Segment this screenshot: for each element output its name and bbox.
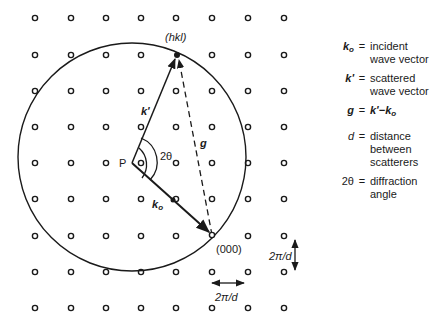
lattice-point bbox=[32, 15, 37, 20]
lattice-point bbox=[209, 160, 214, 165]
lattice-point bbox=[173, 160, 178, 165]
lattice-point bbox=[68, 269, 73, 274]
lattice-point bbox=[138, 52, 143, 57]
lattice-point bbox=[32, 305, 37, 310]
lattice-point bbox=[32, 124, 37, 129]
lattice-point bbox=[138, 124, 143, 129]
legend-item-g: g = k'−ko bbox=[326, 104, 439, 120]
lattice-point bbox=[138, 233, 143, 238]
lattice-point bbox=[209, 15, 214, 20]
lattice-point bbox=[32, 196, 37, 201]
lattice-point bbox=[209, 196, 214, 201]
hkl-label: (hkl) bbox=[165, 31, 186, 43]
lattice-point bbox=[281, 196, 286, 201]
lattice-point bbox=[103, 15, 108, 20]
lattice-point bbox=[103, 124, 108, 129]
lattice-point bbox=[173, 124, 178, 129]
legend: ko = incidentwave vector k' = scatteredw… bbox=[326, 40, 439, 207]
lattice-point bbox=[103, 52, 108, 57]
legend-item-k0: ko = incidentwave vector bbox=[326, 40, 439, 66]
legend-item-d: d = distancebetweenscatterers bbox=[326, 130, 439, 169]
reciprocal-lattice-points bbox=[32, 15, 286, 310]
lattice-point bbox=[103, 269, 108, 274]
lattice-point bbox=[68, 196, 73, 201]
lattice-point bbox=[32, 233, 37, 238]
lattice-point bbox=[209, 124, 214, 129]
lattice-point bbox=[32, 269, 37, 274]
lattice-point bbox=[245, 52, 250, 57]
lattice-point bbox=[173, 233, 178, 238]
g-label: g bbox=[200, 137, 207, 149]
point-p-label: P bbox=[119, 157, 126, 169]
lattice-point bbox=[245, 305, 250, 310]
lattice-point bbox=[68, 52, 73, 57]
lattice-point bbox=[68, 124, 73, 129]
k0-label: ko bbox=[152, 198, 163, 214]
lattice-point bbox=[209, 52, 214, 57]
lattice-point bbox=[68, 305, 73, 310]
lattice-point bbox=[103, 88, 108, 93]
lattice-point bbox=[138, 88, 143, 93]
origin-000-point bbox=[209, 232, 214, 237]
lattice-point bbox=[281, 52, 286, 57]
horizontal-spacing-label: 2π/d bbox=[215, 291, 238, 303]
lattice-point bbox=[173, 88, 178, 93]
lattice-point bbox=[138, 15, 143, 20]
lattice-point bbox=[245, 15, 250, 20]
lattice-point bbox=[281, 160, 286, 165]
angle-2theta-label: 2θ bbox=[160, 150, 172, 162]
vertical-spacing-label: 2π/d bbox=[269, 250, 292, 262]
lattice-point bbox=[281, 15, 286, 20]
lattice-point bbox=[209, 88, 214, 93]
lattice-point bbox=[32, 160, 37, 165]
lattice-point bbox=[103, 160, 108, 165]
lattice-point bbox=[281, 88, 286, 93]
lattice-point bbox=[32, 88, 37, 93]
lattice-point bbox=[209, 269, 214, 274]
lattice-point bbox=[173, 269, 178, 274]
legend-item-2theta: 2θ = diffractionangle bbox=[326, 175, 439, 201]
hkl-point bbox=[174, 52, 180, 58]
lattice-point bbox=[245, 88, 250, 93]
lattice-point bbox=[245, 196, 250, 201]
lattice-point bbox=[281, 305, 286, 310]
lattice-point bbox=[138, 160, 143, 165]
lattice-point bbox=[173, 15, 178, 20]
lattice-point bbox=[68, 160, 73, 165]
lattice-point bbox=[281, 233, 286, 238]
lattice-point bbox=[68, 15, 73, 20]
lattice-point bbox=[245, 124, 250, 129]
lattice-point bbox=[138, 196, 143, 201]
lattice-point bbox=[209, 305, 214, 310]
lattice-point bbox=[103, 196, 108, 201]
k0-midpoint-dot bbox=[171, 198, 176, 203]
lattice-point bbox=[103, 233, 108, 238]
lattice-point bbox=[138, 305, 143, 310]
lattice-point bbox=[281, 269, 286, 274]
origin-000-label: (000) bbox=[216, 243, 242, 255]
legend-item-k-prime: k' = scatteredwave vector bbox=[326, 72, 439, 98]
lattice-point bbox=[103, 305, 108, 310]
lattice-point bbox=[245, 269, 250, 274]
k-prime-label: k' bbox=[141, 105, 150, 117]
lattice-point bbox=[173, 305, 178, 310]
lattice-point bbox=[68, 233, 73, 238]
lattice-point bbox=[245, 233, 250, 238]
lattice-point bbox=[32, 52, 37, 57]
lattice-point bbox=[281, 124, 286, 129]
lattice-point bbox=[68, 88, 73, 93]
